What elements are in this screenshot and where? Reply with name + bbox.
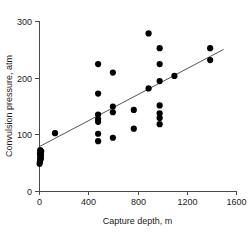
data-point [145,30,151,36]
data-point [131,107,137,113]
data-point [110,109,116,115]
scatter-plot-figure: 0100200300 040080012001600 Capture depth… [0,0,249,232]
data-point [207,57,213,63]
axes-group [39,21,236,192]
data-point [38,156,44,162]
data-point [157,102,163,108]
data-points [37,30,214,167]
y-axis-title: Convulsion pressure, atm [4,55,14,157]
y-axis-ticks: 0100200300 [17,17,39,197]
data-point [95,138,101,144]
data-point [157,115,163,121]
data-point [131,126,137,132]
regression-line [39,49,224,146]
y-tick-label: 300 [17,17,32,27]
data-point [157,78,163,84]
data-point [145,85,151,91]
data-point [157,61,163,67]
data-point [110,135,116,141]
data-point [157,121,163,127]
plot-canvas: 0100200300 040080012001600 Capture depth… [0,0,249,232]
x-tick-label: 0 [37,197,42,207]
data-point [52,130,58,136]
x-tick-label: 800 [131,197,146,207]
data-point [95,119,101,125]
data-point [95,61,101,67]
y-tick-label: 100 [17,130,32,140]
x-tick-label: 1200 [177,197,197,207]
x-tick-label: 400 [81,197,96,207]
data-point [157,45,163,51]
regression-line-segment [39,49,224,146]
data-point [110,69,116,75]
y-tick-label: 0 [27,187,32,197]
data-point [95,90,101,96]
data-point [207,45,213,51]
x-axis-title: Capture depth, m [103,216,173,226]
x-tick-label: 1600 [226,197,246,207]
data-point [110,103,116,109]
x-axis-ticks: 040080012001600 [37,191,247,207]
y-tick-label: 200 [17,74,32,84]
data-point [95,131,101,137]
data-point [37,147,43,153]
data-point [171,73,177,79]
